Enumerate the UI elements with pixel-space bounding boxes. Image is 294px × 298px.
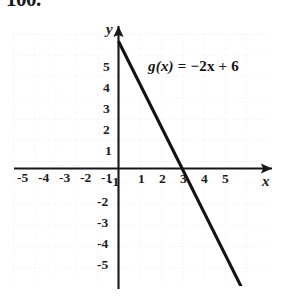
x-tick-label-3: 3	[180, 172, 187, 186]
x-tick-label-5: 5	[222, 172, 229, 186]
y-tick-label-3: 3	[103, 102, 110, 116]
y-tick-label-neg5: -5	[97, 258, 108, 272]
y-tick-label-4: 4	[103, 81, 110, 95]
y-tick-label-5: 5	[103, 60, 110, 74]
x-tick-label-2: 2	[159, 172, 166, 186]
x-tick-label-1: 1	[138, 172, 145, 186]
figure-page: 100.	[0, 0, 294, 298]
equation-function: g(x)	[148, 58, 174, 74]
x-tick-label-neg5: -5	[17, 171, 28, 185]
y-tick-label-neg3: -3	[97, 216, 108, 230]
y-tick-label-neg4: -4	[97, 237, 108, 251]
x-axis-name: x	[262, 174, 270, 189]
equation-equals: =	[178, 58, 187, 74]
coordinate-plane-figure	[0, 0, 294, 298]
graph-svg	[0, 0, 294, 298]
x-tick-label-4: 4	[201, 172, 208, 186]
equation-annotation: g(x) = −2x + 6	[148, 58, 239, 75]
x-tick-label-neg4: -4	[38, 171, 49, 185]
x-tick-label-neg1: -1	[101, 171, 112, 185]
y-tick-label-1: 1	[105, 144, 112, 158]
x-tick-label-neg2: -2	[80, 171, 91, 185]
y-tick-label-neg2: -2	[97, 195, 108, 209]
equation-expression: −2x + 6	[190, 58, 239, 74]
x-tick-label-neg3: -3	[59, 171, 70, 185]
y-tick-label-2: 2	[103, 123, 110, 137]
y-axis-name: y	[106, 22, 113, 37]
